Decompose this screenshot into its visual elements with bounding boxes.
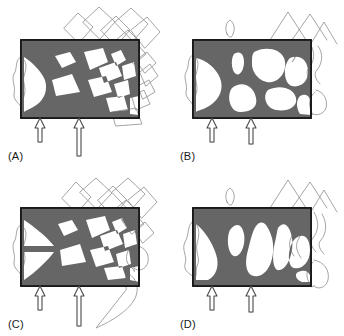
- panel-b-graphic: [172, 0, 344, 168]
- panel-d: (D): [172, 168, 344, 336]
- material-region-b: [193, 40, 311, 118]
- material-region-d: [193, 208, 311, 286]
- panel-a-graphic: [0, 0, 172, 168]
- figure-container: (A): [0, 0, 344, 336]
- panel-b: (B): [172, 0, 344, 168]
- panel-d-label: (D): [180, 319, 196, 330]
- material-region-c: [21, 208, 139, 286]
- panel-a: (A): [0, 0, 172, 168]
- panel-d-graphic: [172, 168, 344, 336]
- load-arrow-b-2: [246, 118, 256, 144]
- material-region-a: [21, 40, 139, 118]
- load-arrow-c-2: [74, 286, 84, 326]
- panel-c-graphic: [0, 168, 172, 336]
- load-arrow-a-2: [74, 118, 84, 156]
- load-arrow-a-1: [35, 118, 45, 142]
- panel-c: (C): [0, 168, 172, 336]
- load-arrow-d-1: [207, 286, 217, 310]
- load-arrow-b-1: [207, 118, 217, 142]
- load-arrow-c-1: [35, 286, 45, 310]
- panel-c-label: (C): [8, 319, 24, 330]
- panel-a-label: (A): [8, 151, 23, 162]
- load-arrow-d-2: [246, 286, 256, 312]
- panel-b-label: (B): [180, 151, 195, 162]
